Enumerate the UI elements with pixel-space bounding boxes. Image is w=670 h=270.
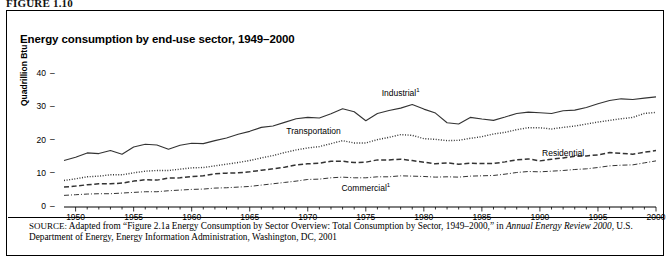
- source-publication-title: Annual Energy Review 2000: [506, 221, 612, 231]
- y-axis-tick-label: 10: [28, 168, 46, 178]
- y-axis-tick-label: 30: [28, 101, 46, 111]
- source-prefix: SOURCE:: [29, 221, 67, 231]
- line-chart-svg: [14, 56, 664, 221]
- y-axis-tick-label: 40: [28, 68, 46, 78]
- plot-area: 1950195519601965197019751980198519901995…: [14, 56, 664, 221]
- y-axis-tick-label: 0: [28, 201, 46, 211]
- figure-number-label: FIGURE 1.10: [6, 0, 73, 9]
- figure-container: FIGURE 1.10 Energy consumption by end-us…: [0, 0, 670, 270]
- footnote-marker: 1: [416, 87, 419, 93]
- y-axis-tick-label: 20: [28, 135, 46, 145]
- series-label-transportation: Transportation: [286, 126, 341, 136]
- y-axis-tick-mark: –: [50, 101, 55, 111]
- y-axis-tick-mark: –: [50, 68, 55, 78]
- source-divider: [8, 217, 664, 218]
- series-label-industrial: Industrial1: [382, 87, 420, 98]
- chart-title: Energy consumption by end-use sector, 19…: [20, 33, 295, 45]
- y-axis-tick-mark: –: [50, 134, 55, 144]
- source-note: SOURCE: Adapted from “Figure 2.1a Energy…: [29, 221, 659, 244]
- y-axis-tick-mark: –: [50, 201, 55, 211]
- source-text-before: Adapted from “Figure 2.1a Energy Consump…: [67, 221, 506, 231]
- chart-panel: Energy consumption by end-use sector, 19…: [6, 10, 664, 256]
- footnote-marker: 1: [387, 182, 390, 188]
- series-label-commercial: Commercial1: [341, 182, 390, 193]
- series-label-residential: Residential: [542, 148, 584, 158]
- y-axis-tick-mark: –: [50, 167, 55, 177]
